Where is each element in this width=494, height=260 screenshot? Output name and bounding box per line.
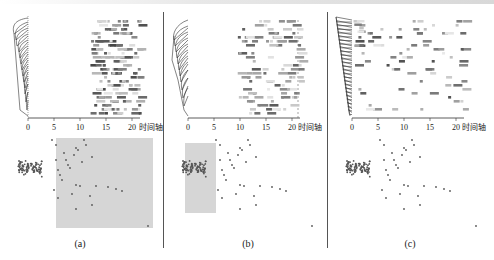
svg-text:10: 10 bbox=[236, 123, 244, 132]
scatter-points bbox=[345, 139, 477, 227]
svg-text:10: 10 bbox=[400, 123, 408, 132]
svg-text:10: 10 bbox=[76, 123, 84, 132]
panel-a: 05 1015 20 时间轴 (a) bbox=[0, 0, 163, 260]
heatmap-cells bbox=[238, 20, 309, 115]
svg-text:5: 5 bbox=[212, 123, 216, 132]
panel-c: 05 1015 20 时间轴 (c) bbox=[328, 0, 491, 260]
caption-c: (c) bbox=[390, 238, 430, 249]
svg-text:20: 20 bbox=[288, 123, 296, 132]
svg-text:20: 20 bbox=[452, 123, 460, 132]
heatmap-cells bbox=[90, 20, 147, 115]
heatmap-cells bbox=[354, 20, 473, 111]
svg-text:15: 15 bbox=[102, 123, 110, 132]
panel-b: 05 1015 20 时间轴 (b) bbox=[164, 0, 327, 260]
svg-text:20: 20 bbox=[128, 123, 136, 132]
svg-text:5: 5 bbox=[376, 123, 380, 132]
svg-text:时间轴: 时间轴 bbox=[462, 122, 486, 132]
panel-a-chart: 05 1015 20 时间轴 bbox=[0, 0, 163, 260]
selection-rect bbox=[185, 143, 216, 213]
svg-text:0: 0 bbox=[26, 123, 30, 132]
selection-rect bbox=[56, 138, 153, 228]
dendrogram bbox=[13, 18, 28, 116]
panel-c-chart: 05 1015 20 时间轴 bbox=[328, 0, 494, 260]
caption-b: (b) bbox=[228, 238, 268, 249]
caption-a: (a) bbox=[60, 238, 100, 249]
svg-text:5: 5 bbox=[52, 123, 56, 132]
svg-text:0: 0 bbox=[350, 123, 354, 132]
svg-text:0: 0 bbox=[186, 123, 190, 132]
svg-text:时间轴: 时间轴 bbox=[298, 122, 322, 132]
svg-text:15: 15 bbox=[426, 123, 434, 132]
svg-text:15: 15 bbox=[262, 123, 270, 132]
panel-b-chart: 05 1015 20 时间轴 bbox=[164, 0, 327, 260]
svg-text:时间轴: 时间轴 bbox=[139, 122, 163, 132]
dendrogram bbox=[172, 20, 188, 116]
dendrogram bbox=[336, 17, 352, 116]
